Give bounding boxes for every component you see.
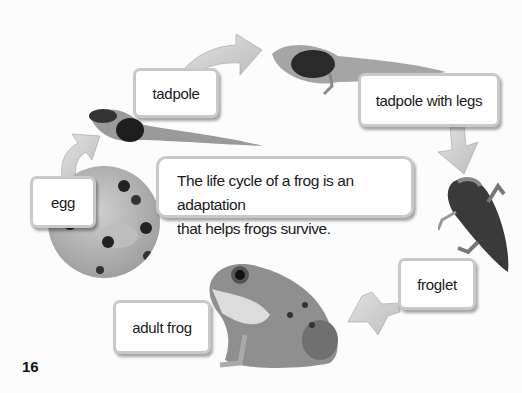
page-number: 16 [22,358,39,375]
stage-label-text: adult frog [132,319,192,336]
arrow-froglet-to-adult-icon [348,292,400,335]
stage-label-froglet: froglet [398,258,476,310]
stage-label-egg: egg [30,176,96,228]
caption-line-2: that helps frogs survive. [177,217,399,241]
stage-label-tadpole: tadpole [133,68,219,118]
stage-label-text: froglet [417,276,457,293]
stage-label-text: tadpole with legs [376,92,483,109]
arrow-tadpole-legs-to-froglet-icon [438,125,478,174]
adult-frog-photo [200,255,350,375]
stage-label-text: egg [51,194,75,211]
caption-line-1: The life cycle of a frog is an adaptatio… [177,169,399,217]
stage-label-tadpole-with-legs: tadpole with legs [358,73,500,127]
stage-label-text: tadpole [152,85,199,102]
caption-box: The life cycle of a frog is an adaptatio… [156,156,414,218]
stage-label-adult-frog: adult frog [113,300,211,354]
